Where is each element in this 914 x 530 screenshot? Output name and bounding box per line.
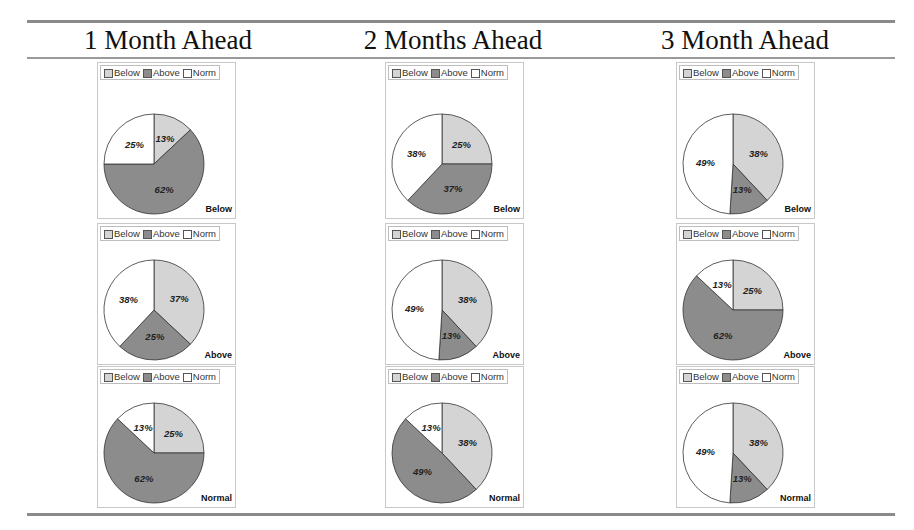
panel-caption: Below (205, 204, 232, 214)
pie-chart-panel: BelowAboveNorm25%62%13%Above (676, 223, 815, 365)
slice-percent-label: 13% (713, 279, 733, 290)
slice-percent-label: 13% (134, 422, 154, 433)
panel-caption: Normal (201, 493, 232, 503)
legend-label: Norm (193, 371, 216, 382)
column-title-1-month: 1 Month Ahead (38, 25, 298, 56)
legend-label: Below (114, 67, 140, 78)
panel-caption: Normal (489, 493, 520, 503)
legend-swatch-above (143, 69, 152, 78)
legend-label: Below (693, 67, 719, 78)
slice-percent-label: 13% (155, 133, 175, 144)
column-title-2-months: 2 Months Ahead (323, 25, 583, 56)
legend-label: Above (441, 371, 468, 382)
legend-swatch-above (431, 69, 440, 78)
legend-swatch-below (392, 373, 401, 382)
legend-swatch-norm (183, 69, 192, 78)
top-rule (27, 20, 895, 23)
legend-swatch-norm (183, 230, 192, 239)
legend-label: Below (402, 67, 428, 78)
slice-percent-label: 25% (124, 139, 145, 150)
legend-swatch-below (683, 69, 692, 78)
bottom-rule (27, 513, 895, 516)
pie-chart: 38%13%49% (390, 258, 494, 362)
slice-percent-label: 38% (749, 148, 769, 159)
slice-percent-label: 13% (422, 422, 442, 433)
pie-chart: 38%13%49% (681, 401, 785, 505)
legend-swatch-above (722, 373, 731, 382)
slice-percent-label: 25% (742, 285, 763, 296)
legend-swatch-above (143, 230, 152, 239)
slice-percent-label: 38% (458, 437, 478, 448)
pie-chart-panel: BelowAboveNorm38%49%13%Normal (385, 366, 524, 508)
slice-percent-label: 49% (695, 446, 716, 457)
legend-label: Below (693, 228, 719, 239)
pie-chart: 38%13%49% (681, 112, 785, 216)
slice-percent-label: 25% (451, 139, 472, 150)
pie-chart: 25%62%13% (681, 258, 785, 362)
legend-swatch-below (683, 230, 692, 239)
pie-chart: 13%62%25% (102, 112, 206, 216)
slice-percent-label: 38% (407, 148, 427, 159)
panel-caption: Above (204, 350, 232, 360)
pie-chart-panel: BelowAboveNorm13%62%25%Below (97, 62, 236, 219)
legend-swatch-norm (471, 373, 480, 382)
slice-percent-label: 37% (443, 183, 463, 194)
slice-percent-label: 49% (412, 466, 433, 477)
slice-percent-label: 38% (749, 437, 769, 448)
legend-swatch-norm (762, 373, 771, 382)
legend-label: Above (732, 67, 759, 78)
legend-swatch-norm (762, 230, 771, 239)
panel-caption: Below (784, 204, 811, 214)
legend-swatch-norm (471, 230, 480, 239)
pie-chart: 25%62%13% (102, 401, 206, 505)
pie-chart: 38%49%13% (390, 401, 494, 505)
legend-swatch-norm (762, 69, 771, 78)
legend-label: Norm (772, 67, 795, 78)
pie-chart-panel: BelowAboveNorm25%62%13%Normal (97, 366, 236, 508)
legend-label: Norm (481, 371, 504, 382)
legend-label: Norm (481, 67, 504, 78)
slice-percent-label: 25% (163, 428, 184, 439)
legend-label: Above (153, 371, 180, 382)
chart-legend: BelowAboveNorm (100, 226, 220, 241)
pie-chart: 37%25%38% (102, 258, 206, 362)
legend-swatch-below (392, 69, 401, 78)
slice-percent-label: 38% (119, 294, 139, 305)
legend-swatch-norm (471, 69, 480, 78)
legend-label: Norm (772, 371, 795, 382)
panel-caption: Above (783, 350, 811, 360)
pie-chart-panel: BelowAboveNorm25%37%38%Below (385, 62, 524, 219)
legend-label: Below (114, 228, 140, 239)
legend-label: Below (114, 371, 140, 382)
legend-label: Norm (193, 67, 216, 78)
slice-percent-label: 62% (134, 473, 154, 484)
legend-label: Above (153, 67, 180, 78)
slice-percent-label: 25% (144, 331, 165, 342)
legend-swatch-above (722, 230, 731, 239)
chart-legend: BelowAboveNorm (679, 226, 799, 241)
chart-legend: BelowAboveNorm (388, 369, 508, 384)
pie-chart-panel: BelowAboveNorm38%13%49%Above (385, 223, 524, 365)
pie-chart: 25%37%38% (390, 112, 494, 216)
chart-legend: BelowAboveNorm (679, 369, 799, 384)
legend-swatch-above (431, 373, 440, 382)
slice-percent-label: 49% (404, 303, 425, 314)
pie-chart-panel: BelowAboveNorm38%13%49%Below (676, 62, 815, 219)
legend-label: Norm (772, 228, 795, 239)
legend-swatch-below (104, 373, 113, 382)
chart-legend: BelowAboveNorm (100, 65, 220, 80)
legend-label: Below (402, 228, 428, 239)
legend-label: Below (693, 371, 719, 382)
chart-legend: BelowAboveNorm (388, 65, 508, 80)
panel-caption: Above (492, 350, 520, 360)
column-title-3-month: 3 Month Ahead (615, 25, 875, 56)
legend-swatch-below (683, 373, 692, 382)
legend-swatch-below (392, 230, 401, 239)
legend-label: Above (153, 228, 180, 239)
legend-swatch-norm (183, 373, 192, 382)
slice-percent-label: 13% (733, 184, 753, 195)
legend-label: Below (402, 371, 428, 382)
legend-swatch-below (104, 230, 113, 239)
slice-percent-label: 49% (695, 157, 716, 168)
slice-percent-label: 62% (713, 330, 733, 341)
